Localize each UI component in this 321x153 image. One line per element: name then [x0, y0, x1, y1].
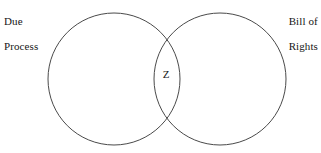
- label-right-set-line1: Bill of: [289, 15, 318, 28]
- intersection-label: Z: [157, 68, 175, 80]
- label-left-set-line1: Due: [4, 15, 38, 28]
- label-right-set: Bill of Rights: [289, 2, 318, 65]
- label-left-set: Due Process: [4, 2, 38, 65]
- label-right-set-line2: Rights: [289, 40, 318, 53]
- venn-diagram-canvas: Due Process Bill of Rights Z: [0, 0, 321, 153]
- label-left-set-line2: Process: [4, 40, 38, 53]
